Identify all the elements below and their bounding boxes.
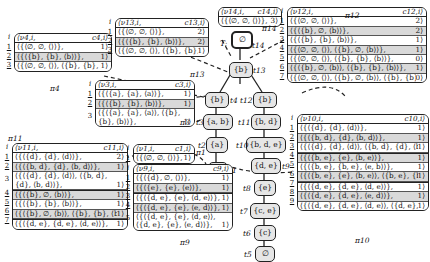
table-row: ⟨{⟨{d, e}, {d, e}, ⟨d, e⟩⟩},1⟩	[298, 182, 428, 192]
row-count: 1⟩	[418, 202, 425, 210]
tree-node-t11: {b, d}	[251, 114, 281, 130]
row-index: 3	[125, 192, 131, 200]
node-label-t5: t5	[244, 250, 252, 259]
row-value: ⟨{⟨{b, e}, {e}, ⟨b, e⟩⟩, ⟨{b, e}, {b, e}…	[300, 172, 418, 180]
table-header: ⟨ν10,i,c10,i⟩	[298, 115, 428, 124]
row-index: 1	[4, 153, 10, 161]
table-row: ⟨{⟨∅, ∅, ⟨⟩⟩},1⟩	[15, 43, 111, 52]
row-count: 1⟩	[416, 64, 423, 72]
row-index: 3	[4, 175, 10, 183]
row-value: ⟨{⟨∅, ∅, ⟨⟩⟩},	[221, 17, 268, 25]
row-value: ⟨{⟨{d}, {d}, ⟨d⟩⟩, ⟨{b, d}, {d}, ⟨b, d⟩⟩…	[300, 143, 418, 151]
row-index: 3	[289, 142, 295, 150]
node-label-t8: t8	[243, 184, 251, 193]
row-count: 1⟩	[418, 183, 425, 191]
table-row: ⟨{⟨{d, e}, {d, e}, ⟨d, e⟩⟩},1⟩	[13, 219, 127, 228]
table-row: ⟨{⟨{b, d}, {d}, ⟨b, d⟩⟩},1⟩	[298, 134, 428, 143]
table-row: ⟨{⟨{b, d}, {d}, ⟨b, d⟩⟩},1⟩	[13, 163, 127, 172]
row-index: 7	[279, 72, 285, 80]
row-index: 4	[125, 201, 131, 209]
table-name-pi11: π11	[8, 134, 22, 143]
row-index: 5	[289, 160, 295, 168]
row-count: 1⟩	[117, 191, 124, 199]
row-index: 5	[4, 198, 10, 206]
row-count: 1⟩	[222, 221, 229, 229]
row-value: ⟨{⟨{b}, ∅, ⟨b⟩⟩},	[290, 27, 349, 35]
table-pi13: ⟨ν13,i,c13,i⟩⟨{⟨∅, ∅, ⟨⟩⟩},2⟩⟨{⟨{b}, {b}…	[115, 18, 209, 57]
row-index: 2	[107, 37, 113, 45]
row-index: 1	[289, 124, 295, 132]
header-nu: ⟨ν1,i,	[136, 145, 155, 153]
table-row: ⟨{⟨{b}, {b}, ⟨b⟩⟩},1⟩	[288, 36, 426, 45]
row-value: ⟨{⟨{d, e}, {d, e}, ⟨d, e⟩⟩},	[15, 220, 108, 228]
row-count: 1⟩	[184, 154, 191, 162]
node-label-t3: t3	[196, 118, 204, 127]
row-index: 1	[87, 90, 93, 98]
table-row: ⟨{⟨∅, ∅, ⟨⟩⟩},1⟩	[134, 154, 194, 162]
table-row: ⟨{⟨∅, ∅, ⟨⟩⟩, ⟨{b}, ∅, ⟨b⟩⟩},1⟩	[288, 46, 426, 55]
node-label-t7: t7	[240, 207, 248, 216]
node-label-t10: t10	[236, 141, 249, 150]
table-row: ⟨{⟨∅, ∅, ⟨⟩⟩, ⟨{b}, {b}, ⟨b⟩⟩},1⟩	[15, 62, 111, 70]
header-c: c4,i⟩	[92, 34, 108, 42]
table-pi4: ⟨ν4,i,c4,i⟩⟨{⟨∅, ∅, ⟨⟩⟩},1⟩⟨{⟨{b}, {b}, …	[14, 33, 112, 72]
table-row: ⟨{⟨{d, e}, {d, e}, ⟨e, d⟩⟩},1⟩	[298, 192, 428, 201]
row-index: 9	[289, 197, 295, 205]
table-name-pi12: π12	[345, 11, 359, 20]
row-value: ⟨{⟨{b}, {b}, ⟨b⟩⟩},	[15, 200, 82, 208]
tree-node-t12: {b}	[253, 92, 277, 108]
row-index: 6	[4, 207, 10, 215]
row-count: 1⟩	[184, 90, 191, 98]
tree-node-t8: {e}	[254, 180, 276, 196]
row-count: 1⟩	[101, 62, 108, 70]
table-row: ⟨{⟨{d}, {d}, ⟨d⟩⟩},1⟩	[298, 124, 428, 133]
row-count: 1⟩	[416, 36, 423, 44]
row-count: 2⟩	[416, 17, 423, 25]
table-row: ⟨{⟨{b, e}, {e}, ⟨b, e⟩⟩, ⟨{b, e}, {b, e}…	[298, 172, 428, 181]
tree-node-t13: {b}	[229, 62, 253, 78]
row-count: 1⟩	[117, 163, 124, 171]
row-index: 1	[125, 174, 131, 182]
row-count: 1⟩	[418, 124, 425, 132]
row-index: 2	[289, 133, 295, 141]
row-count: 1⟩	[198, 47, 205, 55]
index-header: i	[4, 143, 10, 151]
table-row: ⟨{⟨{e}, {e}, ⟨e⟩⟩},1⟩	[134, 184, 232, 193]
header-c: c11,i⟩	[103, 144, 124, 152]
row-count: 1⟩	[117, 181, 124, 189]
index-header: i	[289, 114, 295, 122]
table-row: ⟨{⟨{b}, {b}, ⟨b⟩⟩},2⟩	[116, 38, 208, 47]
index-header: i	[279, 7, 285, 15]
node-label-t12: t12	[240, 96, 253, 105]
table-name-pi9: π9	[180, 238, 190, 247]
node-label-t4: t4	[230, 96, 238, 105]
row-count: 1⟩	[222, 174, 229, 182]
row-count: 1⟩	[416, 46, 423, 54]
row-index: 2	[125, 183, 131, 191]
row-count: 2⟩	[198, 38, 205, 46]
row-value: ⟨{⟨{b}, {b}, ⟨b⟩⟩},	[118, 38, 185, 46]
row-index: 7	[289, 179, 295, 187]
tree-node-t6: {c}	[254, 225, 276, 241]
row-index: 3	[87, 112, 93, 120]
header-c: c14,i⟩	[257, 8, 278, 16]
table-row: ⟨{⟨{d, e}, {e}, ⟨d, e⟩⟩},1⟩	[134, 193, 232, 203]
row-value: ⟨{⟨{d}, {d}, ⟨d⟩⟩, ⟨{b, d}, {d}, ⟨b, d⟩⟩…	[15, 172, 117, 189]
table-row: ⟨{⟨{b, e}, {b, e}, ⟨e, b⟩⟩},1⟩	[298, 163, 428, 172]
node-label-t13: t13	[253, 66, 266, 75]
header-nu: ⟨ν10,i,	[300, 115, 323, 123]
table-row: ⟨{⟨{b}, {b}, ⟨b⟩⟩},1⟩	[13, 200, 127, 209]
row-index: 2	[6, 52, 12, 60]
table-row: ⟨{⟨{b}, ∅, ⟨b⟩⟩, ⟨{b}, {b}, ⟨b⟩⟩},1⟩	[288, 64, 426, 73]
table-row: ⟨{⟨{d}, ∅, ⟨⟩⟩},1⟩	[134, 174, 232, 183]
row-index: 5	[279, 53, 285, 61]
row-value: ⟨{⟨∅, ∅, ⟨⟩⟩, ⟨{b}, ∅, ⟨b⟩⟩, ⟨{b}, {b}, …	[290, 74, 416, 82]
row-value: ⟨{⟨{b, d}, {d}, ⟨b, d⟩⟩},	[15, 163, 100, 171]
row-count: 2⟩	[117, 153, 124, 161]
row-index: 2	[87, 99, 93, 107]
row-index: 2	[4, 162, 10, 170]
row-count: 1⟩	[117, 220, 124, 228]
header-nu: ⟨ν12,i,	[290, 8, 313, 16]
tree-label: T:	[220, 39, 227, 48]
table-header: ⟨ν9,i,c9,i⟩	[134, 165, 232, 174]
